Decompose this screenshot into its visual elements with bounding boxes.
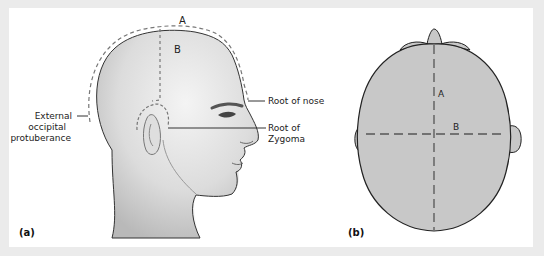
label-a-circumference: A (179, 15, 186, 26)
annotation-occipital-line1: External (35, 111, 72, 121)
nose-top (427, 29, 442, 44)
panel-a-label: (a) (19, 227, 35, 238)
annotation-root-of-nose: Root of nose (268, 96, 325, 106)
panel-a-side-view: A B Root of nose Root of Zygoma External… (10, 15, 324, 238)
panel-b-label: (b) (348, 227, 364, 238)
annotation-occipital-line3: protuberance (10, 133, 71, 143)
label-b-vertical: B (174, 44, 181, 55)
label-a-anteroposterior: A (438, 89, 445, 99)
head-silhouette (97, 30, 259, 238)
figure-svg: A B Root of nose Root of Zygoma External… (0, 0, 544, 256)
panel-b-top-view: A B (b) (348, 29, 521, 238)
label-b-biauricular: B (453, 122, 459, 132)
annotation-root-of-zygoma-line2: Zygoma (268, 134, 305, 144)
annotation-occipital-line2: occipital (28, 122, 66, 132)
ear (143, 115, 160, 155)
annotation-root-of-zygoma-line1: Root of (268, 123, 301, 133)
